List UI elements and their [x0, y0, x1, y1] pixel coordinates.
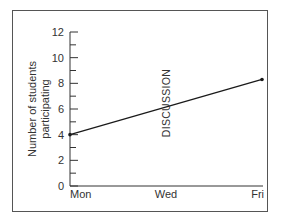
data-point [260, 78, 264, 82]
x-tick-label: Wed [155, 188, 177, 200]
y-tick-label: 10 [52, 52, 64, 64]
y-axis-title-line-2: participating [39, 79, 51, 138]
y-tick-label: 8 [58, 77, 64, 89]
y-tick-label: 4 [58, 129, 64, 141]
y-axis: 024681012 [52, 26, 78, 192]
y-tick-label: 2 [58, 154, 64, 166]
y-axis-title-line-1: Number of students [26, 61, 38, 157]
annotation-discussion: DISCUSSION [160, 69, 172, 137]
x-tick-label: Fri [251, 188, 264, 200]
x-tick-label: Mon [70, 188, 91, 200]
y-tick-label: 6 [58, 103, 64, 115]
y-tick-label: 0 [58, 180, 64, 192]
y-tick-label: 12 [52, 26, 64, 38]
x-axis: MonWedFri [70, 186, 264, 200]
y-axis-title: Number of students participating [26, 61, 51, 157]
data-point [68, 133, 72, 137]
line-chart: 024681012 MonWedFri Number of students p… [0, 0, 284, 221]
